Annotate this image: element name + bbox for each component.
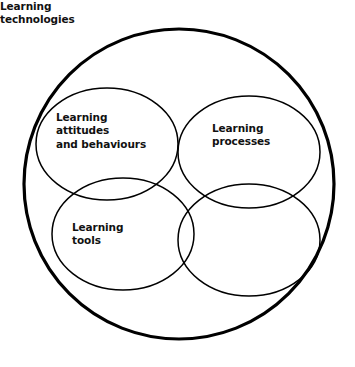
set-label-tools: Learning tools — [72, 221, 123, 248]
set-label-technologies: Learning technologies — [0, 0, 75, 27]
set-label-processes: Learning processes — [212, 122, 270, 149]
set-ellipse-processes[interactable] — [178, 96, 320, 208]
venn-diagram: Learning attitudes and behaviours Learni… — [0, 0, 355, 367]
set-ellipse-technologies[interactable] — [178, 184, 320, 296]
venn-diagram-canvas — [0, 0, 355, 367]
set-label-attitudes: Learning attitudes and behaviours — [56, 111, 146, 151]
outer-circle — [24, 29, 334, 339]
